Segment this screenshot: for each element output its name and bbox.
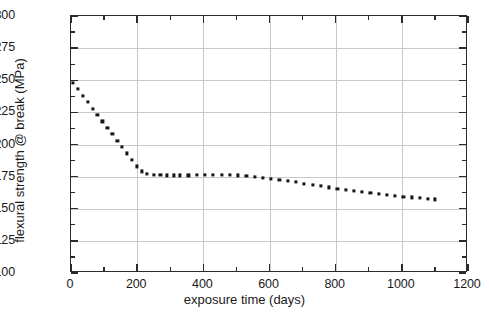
data-point <box>187 174 190 177</box>
data-point <box>294 181 297 184</box>
data-point <box>152 173 155 176</box>
data-point <box>402 195 405 198</box>
x-tick-label: 1200 <box>453 277 480 291</box>
data-point <box>319 185 322 188</box>
data-point <box>212 173 215 176</box>
data-point <box>327 186 330 189</box>
data-point <box>377 192 380 195</box>
data-point <box>361 190 364 193</box>
data-point <box>179 174 182 177</box>
data-point <box>303 182 306 185</box>
x-axis-title: exposure time (days) <box>0 292 489 307</box>
data-point <box>336 187 339 190</box>
x-tick-label: 600 <box>258 277 279 291</box>
x-tick-label: 800 <box>324 277 345 291</box>
x-tick-label: 200 <box>126 277 147 291</box>
data-point <box>126 152 129 155</box>
x-tick-label: 1000 <box>387 277 414 291</box>
data-point <box>136 165 139 168</box>
gridlines <box>71 16 466 271</box>
data-point <box>245 174 248 177</box>
data-point <box>236 174 239 177</box>
y-axis-title: flexural strength @ break (MPa) <box>12 26 27 276</box>
x-tick-label: 0 <box>67 277 74 291</box>
data-point <box>96 113 99 116</box>
data-point <box>71 81 74 84</box>
data-point <box>131 158 134 161</box>
data-point <box>141 170 144 173</box>
x-tick-label: 400 <box>192 277 213 291</box>
data-point <box>385 193 388 196</box>
data-point <box>111 133 114 136</box>
data-point <box>410 196 413 199</box>
data-point <box>253 175 256 178</box>
data-point <box>106 126 109 129</box>
y-tick-label: 300 <box>0 8 15 22</box>
data-point <box>270 177 273 180</box>
data-point <box>172 174 175 177</box>
data-point <box>433 198 436 201</box>
data-point <box>369 191 372 194</box>
data-point <box>278 178 281 181</box>
data-point <box>311 183 314 186</box>
data-point <box>165 174 168 177</box>
data-point <box>145 172 148 175</box>
data-point <box>261 176 264 179</box>
data-point <box>418 197 421 200</box>
data-point <box>116 139 119 142</box>
data-point <box>394 194 397 197</box>
data-point <box>121 145 124 148</box>
plot-area <box>70 15 467 272</box>
data-point <box>352 189 355 192</box>
data-point <box>76 88 79 91</box>
data-point <box>203 173 206 176</box>
data-point <box>81 94 84 97</box>
data-point <box>86 101 89 104</box>
data-point <box>195 173 198 176</box>
data-point <box>427 197 430 200</box>
data-point <box>286 179 289 182</box>
data-point <box>91 107 94 110</box>
data-point <box>344 188 347 191</box>
data-point <box>220 173 223 176</box>
data-point <box>228 173 231 176</box>
data-point <box>159 173 162 176</box>
chart-figure: 1001251501752002252502753000200400600800… <box>0 0 489 317</box>
data-point <box>101 120 104 123</box>
